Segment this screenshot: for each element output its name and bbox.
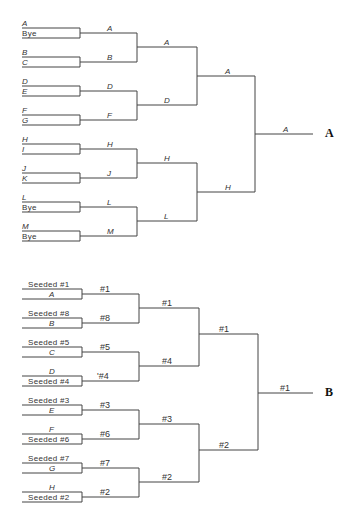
a-r1-6-top: J xyxy=(22,164,26,173)
b-r1-5-top: Seeded #3 xyxy=(28,396,69,405)
a-r1-8-bottom: Bye xyxy=(22,232,37,241)
a-winner: A xyxy=(283,125,288,134)
b-r3-1: #1 xyxy=(162,298,172,308)
b-r1-6-bottom: Seeded #6 xyxy=(28,435,69,444)
a-r1-5-top: H xyxy=(22,135,28,144)
a-r1-3-top: D xyxy=(22,77,28,86)
bracket-a-lines xyxy=(22,28,313,241)
b-r1-8-top: H xyxy=(49,483,55,492)
a-r3-1: A xyxy=(164,38,169,47)
b-r3-2: #4 xyxy=(162,356,172,366)
b-r1-3-top: Seeded #5 xyxy=(28,338,69,347)
b-r1-1-bottom: A xyxy=(49,290,54,299)
b-r2-3: #5 xyxy=(100,342,110,352)
a-r1-3-bottom: E xyxy=(22,87,27,96)
a-r2-7: L xyxy=(107,198,111,207)
b-r2-4: '#4 xyxy=(97,371,109,381)
a-r1-4-bottom: G xyxy=(22,116,28,125)
a-r2-8: M xyxy=(107,227,114,236)
bracket-b-label: B xyxy=(325,385,333,400)
a-r2-4: F xyxy=(107,111,112,120)
a-r1-4-top: F xyxy=(22,106,27,115)
a-r1-5-bottom: I xyxy=(22,145,24,154)
b-r4-1: #1 xyxy=(219,324,229,334)
a-r4-1: A xyxy=(225,67,230,76)
a-r3-3: H xyxy=(164,154,170,163)
b-r2-6: #6 xyxy=(100,429,110,439)
a-r1-7-top: L xyxy=(22,193,26,202)
a-r4-2: H xyxy=(225,183,231,192)
a-r2-2: B xyxy=(107,53,112,62)
b-r4-2: #2 xyxy=(219,440,229,450)
a-r1-1-top: A xyxy=(22,19,27,28)
b-r3-4: #2 xyxy=(162,472,172,482)
a-r1-2-top: B xyxy=(22,48,27,57)
b-r1-2-top: Seeded #8 xyxy=(28,309,69,318)
a-r2-5: H xyxy=(107,140,113,149)
b-r1-2-bottom: B xyxy=(49,319,54,328)
a-r1-1-bottom: Bye xyxy=(22,29,37,38)
b-r2-1: #1 xyxy=(100,284,110,294)
a-r2-3: D xyxy=(107,82,113,91)
a-r1-6-bottom: K xyxy=(22,174,27,183)
b-r1-7-top: Seeded #7 xyxy=(28,454,69,463)
b-r1-6-top: F xyxy=(49,425,54,434)
b-r1-4-top: D xyxy=(49,367,55,376)
b-winner: #1 xyxy=(280,383,290,393)
b-r1-4-bottom: Seeded #4 xyxy=(28,377,69,386)
a-r1-2-bottom: C xyxy=(22,58,28,67)
a-r3-4: L xyxy=(164,212,168,221)
b-r3-3: #3 xyxy=(162,414,172,424)
b-r2-7: #7 xyxy=(100,458,110,468)
b-r2-8: #2 xyxy=(100,487,110,497)
a-r2-1: A xyxy=(107,24,112,33)
b-r1-8-bottom: Seeded #2 xyxy=(28,493,69,502)
b-r1-3-bottom: C xyxy=(49,348,55,357)
bracket-a-label: A xyxy=(325,126,334,141)
a-r1-8-top: M xyxy=(22,222,29,231)
a-r3-2: D xyxy=(164,96,170,105)
b-r1-5-bottom: E xyxy=(49,406,54,415)
b-r1-7-bottom: G xyxy=(49,464,55,473)
tournament-brackets: A Bye B C D E F G H I J K L Bye M Bye A … xyxy=(0,0,348,507)
b-r2-2: #8 xyxy=(100,313,110,323)
a-r1-7-bottom: Bye xyxy=(22,203,37,212)
b-r1-1-top: Seeded #1 xyxy=(28,280,69,289)
a-r2-6: J xyxy=(107,169,111,178)
b-r2-5: #3 xyxy=(100,400,110,410)
